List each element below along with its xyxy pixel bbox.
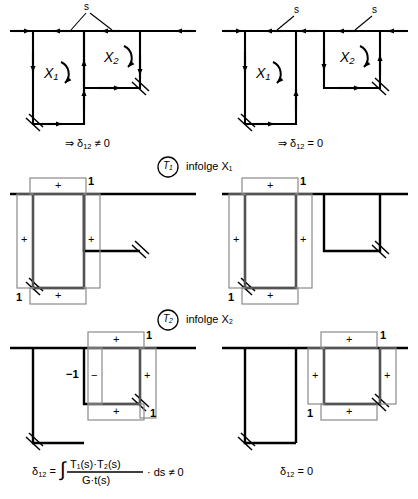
caption-top-left: ⇒ δ12 ≠ 0: [65, 138, 110, 150]
panel-top-right-structure: [222, 16, 408, 131]
magnitude-mid-right-top: 1: [300, 176, 306, 187]
formula-left-lhs: δ12 =: [32, 466, 56, 478]
magnitude-mid-left-bottom: 1: [16, 292, 22, 303]
magnitude-mid-right-bottom: 1: [228, 292, 234, 303]
panel-top-left-structure: [10, 13, 196, 131]
label-x1-top-right: X1: [256, 66, 271, 82]
magnitude-bot-right-bottom: 1: [307, 408, 313, 419]
sign-mid-left-top: +: [55, 180, 61, 191]
t2-divider-text: infolge X₂: [186, 314, 233, 325]
panel-bot-left-structure: [10, 348, 196, 450]
label-x2-top-right: X2: [340, 50, 355, 66]
formula-left-numerator: T₁(s)·T₂(s): [70, 459, 121, 470]
sign-bot-left-top: +: [113, 334, 119, 345]
sign-mid-left-west: +: [21, 234, 27, 245]
sign-bot-left-web: −: [91, 370, 97, 381]
panel-mid-right-structure: [222, 194, 408, 295]
t1-circle-text: T1: [163, 161, 173, 172]
magnitude-mid-left-top: 1: [88, 176, 94, 187]
t1-divider-text: infolge X₁: [186, 161, 233, 172]
sign-bot-right-bottom: +: [346, 406, 352, 417]
sign-mid-right-east: +: [300, 234, 306, 245]
sign-bot-right-top: +: [346, 334, 352, 345]
sign-mid-right-bottom: +: [267, 290, 273, 301]
sign-bot-left-east: +: [144, 370, 150, 381]
magnitude-bot-left-web: −1: [66, 369, 79, 380]
sign-bot-right-west: +: [312, 370, 318, 381]
magnitude-bot-left-top: 1: [146, 330, 152, 341]
label-s-top-left: s: [84, 2, 89, 12]
label-x2-top-left: X2: [104, 50, 119, 66]
sign-mid-left-bottom: +: [55, 290, 61, 301]
magnitude-bot-left-bottom: 1: [150, 408, 156, 419]
sign-mid-right-west: +: [233, 234, 239, 245]
sign-bot-right-east: +: [384, 370, 390, 381]
sign-mid-right-top: +: [267, 180, 273, 191]
label-s-top-right-2: s: [372, 5, 377, 15]
formula-left-tail: · ds ≠ 0: [147, 467, 184, 478]
figure-sheet: s X1 X2 ⇒ δ12 ≠ 0 s s X1 X2 ⇒ δ12 = 0 T1…: [0, 0, 418, 499]
label-s-top-right-1: s: [294, 5, 299, 15]
label-x1-top-left: X1: [44, 66, 59, 82]
magnitude-bot-right-top: 1: [380, 330, 386, 341]
caption-top-right: ⇒ δ12 = 0: [278, 138, 323, 150]
sign-bot-left-bottom: +: [113, 406, 119, 417]
formula-left-denominator: G·t(s): [82, 475, 110, 486]
diagram-vectors: [0, 0, 418, 499]
sign-mid-left-east: +: [88, 234, 94, 245]
formula-right: δ12 = 0: [280, 466, 313, 478]
panel-mid-left-structure: [10, 194, 196, 295]
t2-circle-text: T2: [163, 314, 173, 325]
formula-left-integral: ∫: [60, 459, 65, 479]
